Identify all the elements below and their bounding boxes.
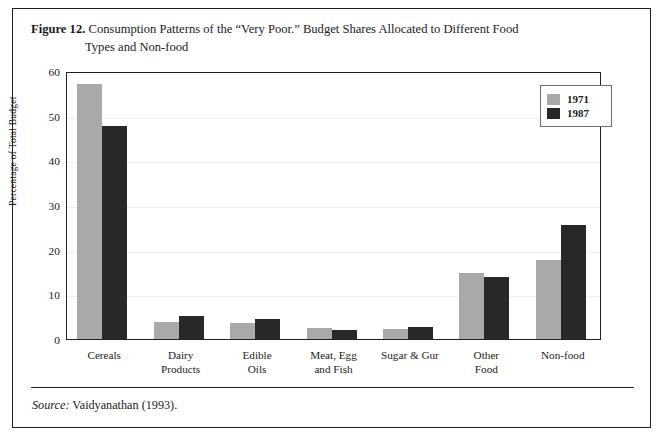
bar-1987 [179,316,204,339]
legend: 1971 1987 [540,85,612,127]
y-axis-label: Percentage of Total Budget [7,96,18,206]
bar-1971 [383,329,408,339]
y-axis-tick-label: 60 [20,66,60,78]
bar-1987 [102,126,127,339]
source-citation: Vaidyanathan (1993). [69,398,177,412]
source-word: Source: [32,398,69,412]
bar-1971 [536,260,561,339]
source-divider [31,387,634,388]
bar-1971 [230,323,255,339]
legend-swatch-1971 [547,94,560,105]
bar-1987 [332,330,357,339]
bar-1971 [77,84,102,339]
legend-label-1987: 1987 [567,107,589,119]
bar-1987 [255,319,280,339]
bar-1987 [484,277,509,339]
y-axis-tick-label: 40 [20,155,60,167]
legend-label-1971: 1971 [567,93,589,105]
legend-swatch-1987 [547,108,560,119]
bar-series-container [67,73,600,339]
bar-1971 [154,322,179,339]
y-axis-tick-label: 20 [20,245,60,257]
chart-area: Percentage of Total Budget 0102030405060… [13,9,652,429]
bar-1987 [408,327,433,339]
plot-region [66,72,601,340]
x-axis-tick-label: Non-food [508,348,618,362]
y-axis-tick-label: 30 [20,200,60,212]
legend-item-1987: 1987 [547,107,604,119]
bar-1971 [459,273,484,339]
y-axis-tick-label: 10 [20,289,60,301]
y-axis-tick-label: 0 [20,334,60,346]
bar-1987 [561,225,586,339]
legend-item-1971: 1971 [547,93,604,105]
bar-1971 [307,328,332,339]
figure-frame: Figure 12. Consumption Patterns of the “… [12,8,651,428]
y-axis-tick-label: 50 [20,111,60,123]
source-note: Source: Vaidyanathan (1993). [32,398,177,413]
